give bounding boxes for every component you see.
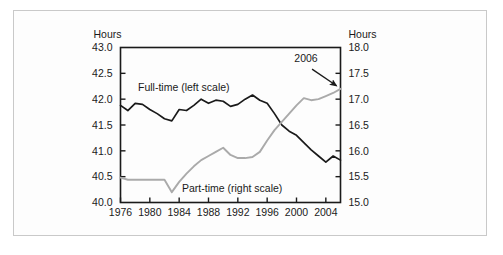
x-axis-tick-label: 1984 (167, 206, 191, 218)
y2-axis-tick-label: 15.5 (349, 170, 370, 182)
y2-axis-tick-label: 16.0 (349, 145, 370, 157)
x-axis-tick-label: 1996 (255, 206, 279, 218)
x-axis-tick-label: 2004 (314, 206, 338, 218)
x-axis-tick-label: 1980 (138, 206, 162, 218)
y2-axis-tick-label: 16.5 (349, 119, 370, 131)
series-label-full-time: Full-time (left scale) (138, 81, 230, 93)
y2-axis-tick-label: 17.5 (349, 67, 370, 79)
annotation-label-2006: 2006 (294, 52, 318, 64)
y-axis-tick-label: 42.0 (92, 93, 113, 105)
x-axis-tick-label: 1976 (109, 206, 133, 218)
line-chart: 40.040.541.041.542.042.543.015.015.516.0… (0, 0, 503, 255)
series-line-part-time (121, 89, 341, 192)
y-axis-tick-label: 40.5 (92, 170, 113, 182)
chart-figure: 40.040.541.041.542.042.543.015.015.516.0… (0, 0, 503, 255)
y-axis-tick-label: 43.0 (92, 41, 113, 53)
y2-axis-tick-label: 18.0 (349, 41, 370, 53)
y2-axis-tick-label: 15.0 (349, 196, 370, 208)
y-axis-tick-label: 41.0 (92, 145, 113, 157)
series-label-part-time: Part-time (right scale) (182, 182, 282, 194)
left-axis-title: Hours (94, 28, 122, 40)
y2-axis-tick-label: 17.0 (349, 93, 370, 105)
series-line-full-time (121, 95, 341, 162)
x-axis-tick-label: 2000 (285, 206, 309, 218)
x-axis-tick-label: 1988 (197, 206, 221, 218)
y-axis-tick-label: 41.5 (92, 119, 113, 131)
y-axis-tick-label: 42.5 (92, 67, 113, 79)
right-axis-title: Hours (349, 28, 377, 40)
x-axis-tick-label: 1992 (226, 206, 250, 218)
annotation-arrow-2006 (312, 69, 337, 86)
